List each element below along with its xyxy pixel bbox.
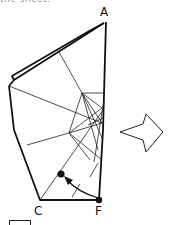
origami-diagram: [0, 0, 172, 225]
next-diagram-frame: [9, 220, 31, 225]
corner-f-dot: [96, 197, 102, 203]
fold-arrow: [67, 180, 98, 198]
point-label-a: A: [100, 6, 108, 18]
point-label-c: C: [34, 205, 42, 217]
next-step-arrow-icon: [120, 114, 163, 152]
point-label-f: F: [95, 205, 102, 217]
target-dot: [57, 170, 64, 177]
